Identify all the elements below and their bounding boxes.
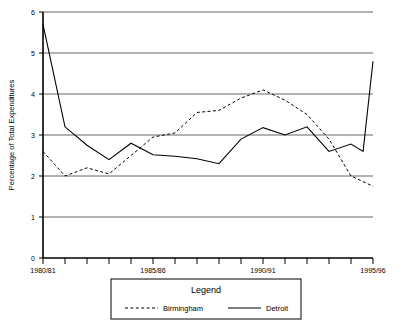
x-tick-label-first: 1980/81 (30, 267, 55, 274)
chart-figure: 6 5 4 3 2 1 0 Percentage of Total Expend… (0, 0, 409, 323)
legend: Legend Birmingham Detroit (111, 279, 301, 319)
x-axis-ticks (43, 258, 373, 264)
legend-label-birmingham: Birmingham (163, 304, 203, 313)
x-tick-label-last: 1995/96 (360, 267, 385, 274)
y-tick-label-2: 2 (31, 173, 35, 180)
x-tick-label-mid2: 1990/91 (250, 267, 275, 274)
y-tick-label-5: 5 (31, 50, 35, 57)
y-tick-label-4: 4 (31, 91, 35, 98)
y-axis-title: Percentage of Total Expenditures (7, 80, 16, 191)
y-tick-label-6: 6 (31, 9, 35, 16)
y-tick-label-3: 3 (31, 132, 35, 139)
y-tick-label-0: 0 (31, 255, 35, 262)
line-chart: 6 5 4 3 2 1 0 Percentage of Total Expend… (0, 0, 409, 323)
x-tick-label-mid1: 1985/86 (140, 267, 165, 274)
y-tick-label-1: 1 (31, 214, 35, 221)
legend-label-detroit: Detroit (266, 304, 289, 313)
legend-title: Legend (191, 285, 221, 295)
